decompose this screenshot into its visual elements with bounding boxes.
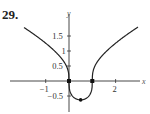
intercept-point	[90, 79, 94, 83]
y-tick-label: 0.5	[52, 61, 63, 71]
ticks: −121.510.5−0.5	[40, 31, 117, 101]
minimum-point	[79, 98, 83, 102]
x-tick-label: 2	[113, 84, 117, 94]
axes: xy	[10, 9, 146, 112]
intercept-point	[67, 79, 71, 83]
y-tick-label: −0.5	[48, 91, 63, 101]
marked-points	[67, 79, 94, 102]
function-graph: xy −121.510.5−0.5	[0, 0, 150, 114]
y-tick-label: 1	[61, 46, 65, 56]
x-axis-label: x	[141, 77, 146, 86]
y-axis-label: y	[66, 9, 71, 18]
y-tick-label: 1.5	[52, 31, 63, 41]
